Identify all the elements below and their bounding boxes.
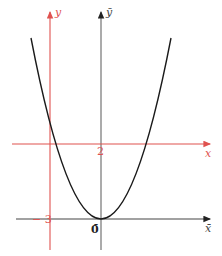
x-tick-label: 2	[97, 145, 104, 158]
diagram-canvas: y ȳ x x̄ 2 − 3 0̄	[0, 0, 222, 256]
y-axis-label: y	[54, 6, 62, 19]
y-tick-label: − 3	[32, 213, 52, 226]
y-bar-axis-label: ȳ	[105, 6, 113, 19]
x-axis-label: x	[205, 147, 212, 160]
origin-bar-label: 0̄	[91, 223, 99, 236]
x-bar-axis-label: x̄	[205, 222, 212, 235]
